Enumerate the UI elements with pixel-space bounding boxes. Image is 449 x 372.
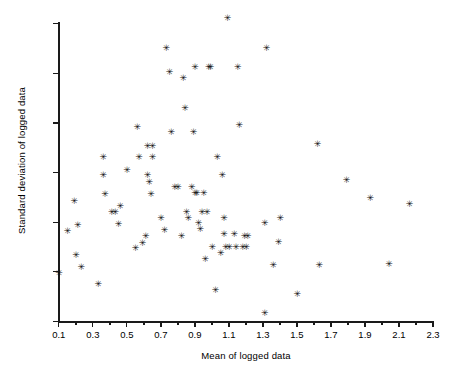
data-point-marker: ✳ [213, 154, 220, 161]
x-tick-mark [330, 322, 331, 327]
data-point-marker: ✳ [161, 227, 168, 234]
y-tick-mark [53, 73, 59, 74]
data-point-marker: ✳ [142, 233, 149, 240]
data-point-marker: ✳ [219, 172, 226, 179]
data-point-marker: ✳ [198, 209, 205, 216]
x-minor-tick-mark [245, 322, 246, 325]
data-point-marker: ✳ [316, 262, 323, 269]
x-minor-tick-mark [313, 322, 314, 325]
data-point-marker: ✳ [101, 191, 108, 198]
data-point-marker: ✳ [185, 215, 192, 222]
data-point-marker: ✳ [217, 250, 224, 257]
data-point-marker: ✳ [196, 226, 203, 233]
data-point-marker: ✳ [203, 209, 210, 216]
data-point-marker: ✳ [193, 190, 200, 197]
x-minor-tick-mark [109, 322, 110, 325]
data-point-marker: ✳ [232, 244, 239, 251]
data-point-marker: ✳ [144, 172, 151, 179]
data-point-marker: ✳ [111, 209, 118, 216]
y-tick-mark [53, 271, 59, 272]
x-minor-tick-mark [143, 322, 144, 325]
data-point-marker: ✳ [100, 154, 107, 161]
data-point-marker: ✳ [144, 143, 151, 150]
y-axis-title: Standard deviation of logged data [16, 66, 27, 256]
y-tick-mark [53, 172, 59, 173]
x-tick-label: 2.3 [413, 330, 449, 340]
x-minor-tick-mark [347, 322, 348, 325]
data-point-marker: ✳ [77, 264, 84, 271]
data-point-marker: ✳ [224, 15, 231, 22]
x-tick-mark [126, 322, 127, 327]
data-point-marker: ✳ [188, 184, 195, 191]
data-point-marker: ✳ [100, 172, 107, 179]
data-point-marker: ✳ [149, 154, 156, 161]
data-point-marker: ✳ [195, 220, 202, 227]
data-point-marker: ✳ [117, 203, 124, 210]
x-tick-mark [398, 322, 399, 327]
data-point-marker: ✳ [64, 228, 71, 235]
data-point-marker: ✳ [261, 220, 268, 227]
data-point-marker: ✳ [181, 105, 188, 112]
x-minor-tick-mark [177, 322, 178, 325]
data-point-marker: ✳ [139, 240, 146, 247]
data-point-marker: ✳ [212, 287, 219, 294]
data-point-marker: ✳ [230, 231, 237, 238]
data-point-marker: ✳ [171, 184, 178, 191]
y-tick-mark [53, 222, 59, 223]
x-tick-mark [296, 322, 297, 327]
x-minor-tick-mark [415, 322, 416, 325]
scatter-plot-figure: Standard deviation of logged data Mean o… [0, 0, 449, 372]
x-minor-tick-mark [211, 322, 212, 325]
data-point-marker: ✳ [174, 184, 181, 191]
x-axis-title: Mean of logged data [59, 350, 433, 361]
data-point-marker: ✳ [222, 244, 229, 251]
x-tick-mark [194, 322, 195, 327]
data-point-marker: ✳ [263, 45, 270, 52]
data-point-marker: ✳ [132, 245, 139, 252]
x-tick-mark [92, 322, 93, 327]
data-point-marker: ✳ [208, 244, 215, 251]
x-tick-mark [228, 322, 229, 327]
data-point-marker: ✳ [236, 122, 243, 129]
data-point-marker: ✳ [179, 75, 186, 82]
y-tick-mark [53, 23, 59, 24]
data-point-marker: ✳ [115, 221, 122, 228]
data-point-marker: ✳ [225, 244, 232, 251]
x-tick-mark [432, 322, 433, 327]
data-point-marker: ✳ [123, 167, 130, 174]
data-point-marker: ✳ [134, 124, 141, 131]
data-point-marker: ✳ [202, 256, 209, 263]
x-tick-mark [58, 322, 59, 327]
data-point-marker: ✳ [183, 209, 190, 216]
data-point-marker: ✳ [343, 177, 350, 184]
data-point-marker: ✳ [276, 215, 283, 222]
x-tick-mark [160, 322, 161, 327]
data-point-marker: ✳ [239, 244, 246, 251]
data-point-marker: ✳ [74, 222, 81, 229]
data-point-marker: ✳ [241, 233, 248, 240]
data-point-marker: ✳ [367, 195, 374, 202]
data-point-marker: ✳ [220, 215, 227, 222]
data-point-marker: ✳ [314, 141, 321, 148]
data-point-marker: ✳ [191, 190, 198, 197]
data-point-marker: ✳ [406, 201, 413, 208]
data-point-marker: ✳ [200, 190, 207, 197]
data-point-marker: ✳ [207, 64, 214, 71]
data-point-marker: ✳ [178, 233, 185, 240]
data-point-marker: ✳ [244, 233, 251, 240]
x-minor-tick-mark [279, 322, 280, 325]
data-point-marker: ✳ [149, 143, 156, 150]
data-point-marker: ✳ [72, 252, 79, 259]
data-point-marker: ✳ [157, 215, 164, 222]
data-point-marker: ✳ [71, 198, 78, 205]
data-point-marker: ✳ [94, 281, 101, 288]
data-point-marker: ✳ [147, 191, 154, 198]
data-point-marker: ✳ [242, 244, 249, 251]
data-point-marker: ✳ [166, 69, 173, 76]
data-points-layer: ✳✳✳✳✳✳✳✳✳✳✳✳✳✳✳✳✳✳✳✳✳✳✳✳✳✳✳✳✳✳✳✳✳✳✳✳✳✳✳✳… [0, 0, 449, 372]
data-point-marker: ✳ [220, 231, 227, 238]
data-point-marker: ✳ [275, 239, 282, 246]
data-point-marker: ✳ [293, 291, 300, 298]
x-tick-mark [364, 322, 365, 327]
data-point-marker: ✳ [205, 64, 212, 71]
